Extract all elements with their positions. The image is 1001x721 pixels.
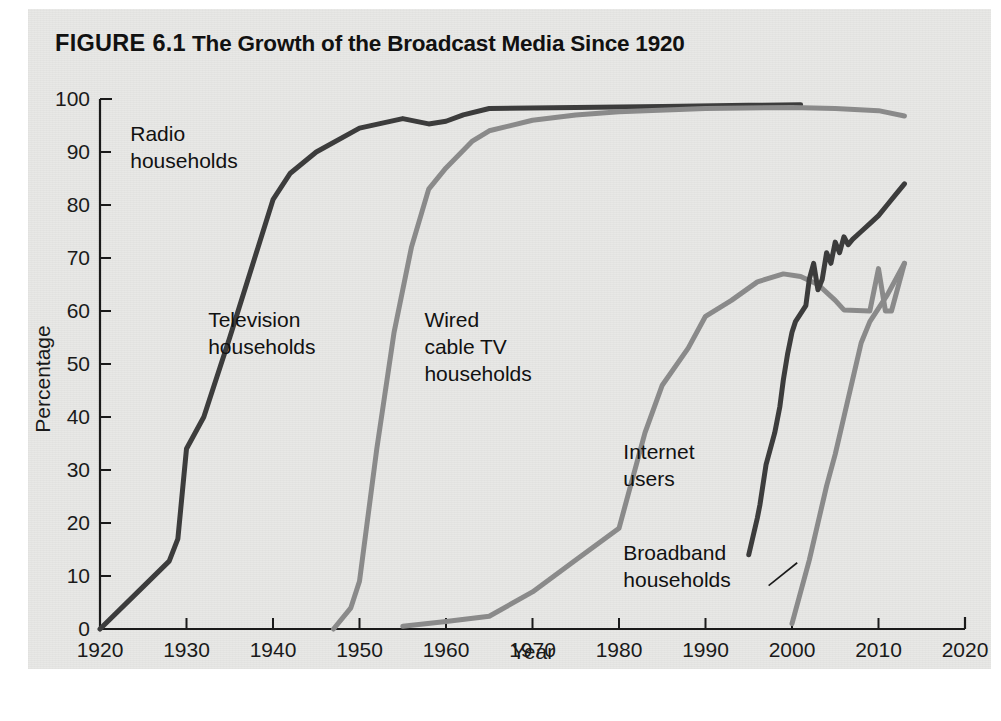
y-axis-tick-labels: 0102030405060708090100 [55, 87, 90, 640]
y-tick-label: 0 [78, 617, 90, 640]
x-axis-ticks [100, 618, 965, 629]
series-line-internet-users [749, 184, 905, 555]
x-axis-title: Year [512, 640, 554, 663]
series-label-line: households [208, 335, 315, 358]
chart-annotations: RadiohouseholdsTelevisionhouseholdsWired… [130, 122, 730, 591]
x-tick-label: 1960 [423, 638, 470, 661]
series-label-line: users [623, 467, 674, 490]
x-tick-label: 2010 [855, 638, 902, 661]
series-label-line: households [424, 362, 531, 385]
series-label-line: Internet [623, 440, 694, 463]
figure-panel: FIGURE 6.1 The Growth of the Broadcast M… [28, 9, 991, 669]
y-tick-label: 10 [67, 564, 90, 587]
y-tick-label: 80 [67, 193, 90, 216]
x-tick-label: 2000 [769, 638, 816, 661]
series-label-line: Television [208, 308, 300, 331]
series-label-line: cable TV [424, 335, 507, 358]
x-tick-label: 1930 [163, 638, 210, 661]
y-tick-label: 20 [67, 511, 90, 534]
series-label-line: households [623, 568, 730, 591]
y-tick-label: 90 [67, 140, 90, 163]
x-tick-label: 1920 [77, 638, 124, 661]
x-tick-label: 1990 [682, 638, 729, 661]
y-tick-label: 40 [67, 405, 90, 428]
axis-frame [100, 99, 965, 629]
y-tick-label: 50 [67, 352, 90, 375]
y-axis-ticks [100, 99, 111, 629]
line-chart: 0102030405060708090100 19201930194019501… [28, 9, 991, 669]
series-label-radio-households: Radiohouseholds [130, 122, 237, 172]
x-tick-label: 1950 [336, 638, 383, 661]
series-label-wired-cable-tv-households: Wiredcable TVhouseholds [424, 308, 531, 385]
series-line-broadband-households [792, 263, 904, 623]
series-label-line: Radio [130, 122, 185, 145]
y-tick-label: 30 [67, 458, 90, 481]
y-axis-title: Percentage [31, 325, 54, 432]
x-tick-label: 1940 [250, 638, 297, 661]
series-line-television-households [334, 107, 905, 629]
series-label-line: Broadband [623, 541, 726, 564]
y-tick-label: 100 [55, 87, 90, 110]
series-label-line: Wired [424, 308, 479, 331]
broadband-leader-line [769, 563, 798, 586]
x-tick-label: 1980 [596, 638, 643, 661]
y-tick-label: 70 [67, 246, 90, 269]
x-tick-label: 2020 [942, 638, 989, 661]
series-label-line: households [130, 149, 237, 172]
series-label-television-households: Televisionhouseholds [208, 308, 315, 358]
series-label-broadband-households: Broadbandhouseholds [623, 541, 730, 591]
y-tick-label: 60 [67, 299, 90, 322]
